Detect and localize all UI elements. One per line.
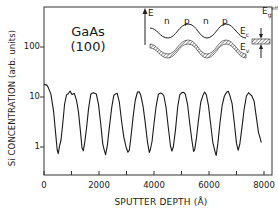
inset-energy-label: E: [148, 8, 154, 18]
inset-effective-gap-label: Egeff: [262, 5, 278, 18]
sample-annotation: GaAs (100): [64, 24, 112, 54]
valence-band-hatched: [150, 40, 246, 58]
energy-arrow-head-icon: [143, 8, 148, 14]
y-tick-label-100: 100: [12, 41, 40, 51]
sample-orientation: (100): [64, 39, 112, 54]
x-tick-label-0: 0: [26, 180, 62, 190]
inset-valence-band-label: Ev: [240, 42, 249, 54]
sample-name: GaAs: [64, 24, 112, 39]
x-tick-label-8000: 8000: [246, 180, 278, 190]
x-tick-label-4000: 4000: [136, 180, 172, 190]
sputter-depth-profile-chart: Si CONCENTRATION (arb. units) SPUTTER DE…: [0, 0, 278, 213]
inset-region-p2: p: [222, 16, 228, 26]
inset-region-n2: n: [203, 16, 209, 26]
inset-region-n1: n: [164, 16, 170, 26]
inset-region-p1: p: [184, 16, 190, 26]
y-tick-label-1: 1: [12, 141, 40, 151]
conduction-band-curve: [150, 24, 246, 38]
si-concentration-line: [44, 84, 261, 155]
effective-gap-bar: [252, 39, 270, 44]
inset-conduction-band-label: Ec: [240, 26, 249, 38]
x-tick-label-2000: 2000: [81, 180, 117, 190]
gap-arrow-up-icon: [259, 44, 263, 49]
x-axis-ticks: [44, 171, 264, 175]
x-axis-label: SPUTTER DEPTH (Å): [86, 197, 236, 207]
x-tick-label-6000: 6000: [191, 180, 227, 190]
y-tick-label-10: 10: [12, 91, 40, 101]
y-axis-ticks: [40, 47, 44, 147]
gap-arrow-down-icon: [259, 34, 263, 39]
